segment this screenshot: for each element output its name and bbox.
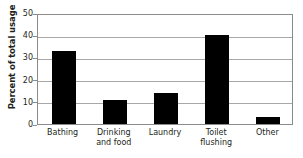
y-tick-label-50: 50 <box>0 10 33 18</box>
bar-other[interactable] <box>256 117 280 124</box>
y-tick-mark-0 <box>33 125 37 126</box>
x-tick-label-line: Toilet <box>191 128 242 138</box>
chart-title <box>0 0 303 1</box>
y-tick-label-0: 0 <box>0 121 33 129</box>
plot-area <box>37 14 293 125</box>
x-tick-label-other: Other <box>242 128 293 138</box>
bar-bathing[interactable] <box>52 51 76 124</box>
y-tick-mark-10 <box>33 102 37 103</box>
bars-group <box>38 15 292 124</box>
y-tick-label-40: 40 <box>0 32 33 40</box>
x-tick-label-bathing: Bathing <box>37 128 88 138</box>
y-tick-label-20: 20 <box>0 77 33 85</box>
y-tick-mark-20 <box>33 80 37 81</box>
x-tick-label-line: Drinking <box>88 128 139 138</box>
x-tick-label-line: flushing <box>191 138 242 148</box>
x-tick-label-line: and food <box>88 138 139 148</box>
x-tick-label-toilet-flushing: Toiletflushing <box>191 128 242 148</box>
bar-toilet-flushing[interactable] <box>205 35 229 124</box>
x-tick-label-line: Laundry <box>139 128 190 138</box>
x-axis-tick-labels: BathingDrinkingand foodLaundryToiletflus… <box>37 128 293 156</box>
y-tick-mark-40 <box>33 36 37 37</box>
y-tick-mark-30 <box>33 58 37 59</box>
x-tick-label-drinking-and-food: Drinkingand food <box>88 128 139 148</box>
x-tick-label-line: Bathing <box>37 128 88 138</box>
x-tick-label-line: Other <box>242 128 293 138</box>
y-tick-label-10: 10 <box>0 99 33 107</box>
bar-drinking-and-food[interactable] <box>103 100 127 124</box>
x-tick-label-laundry: Laundry <box>139 128 190 138</box>
y-tick-label-30: 30 <box>0 54 33 62</box>
y-tick-mark-50 <box>33 14 37 15</box>
y-axis-tick-labels: 01020304050 <box>0 14 33 125</box>
bar-laundry[interactable] <box>154 93 178 124</box>
bar-chart-figure: Percent of total usage 01020304050 Bathi… <box>0 0 303 158</box>
